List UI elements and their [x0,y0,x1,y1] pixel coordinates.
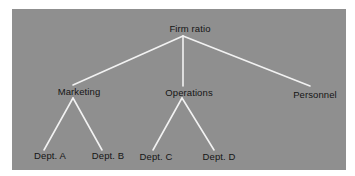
node-dept-b: Dept. B [92,150,124,161]
edge-root-personnel [183,36,310,86]
edge-root-marketing [73,36,183,85]
node-personnel: Personnel [293,89,337,100]
edge-operations-deptd [182,98,214,150]
edge-marketing-deptb [73,98,102,150]
node-dept-d: Dept. D [203,151,236,162]
node-firm-ratio: Firm ratio [169,23,210,34]
edge-marketing-depta [44,98,73,150]
edge-operations-deptc [153,98,182,150]
node-dept-c: Dept. C [140,151,173,162]
node-dept-a: Dept. A [34,150,66,161]
node-marketing: Marketing [58,86,101,97]
node-operations: Operations [165,87,212,98]
